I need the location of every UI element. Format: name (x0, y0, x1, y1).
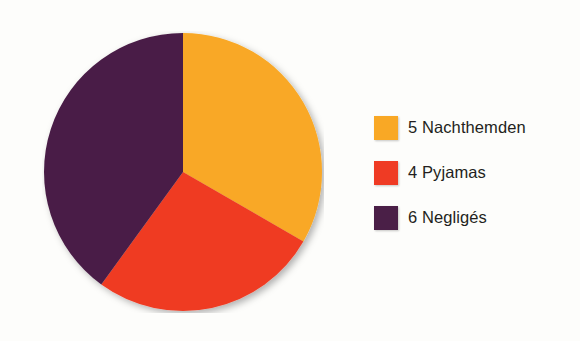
legend-item-negliges[interactable]: 6 Negligés (374, 195, 574, 240)
legend-item-pyjamas[interactable]: 4 Pyjamas (374, 150, 574, 195)
legend-item-nachthemden[interactable]: 5 Nachthemden (374, 105, 574, 150)
legend-label-pyjamas: 4 Pyjamas (408, 164, 486, 181)
pie-svg (42, 31, 324, 313)
pie-chart-graphic (42, 31, 324, 313)
legend-label-nachthemden: 5 Nachthemden (408, 119, 526, 136)
pie-chart-figure: 5 Nachthemden 4 Pyjamas 6 Negligés (0, 0, 580, 341)
chart-legend: 5 Nachthemden 4 Pyjamas 6 Negligés (374, 105, 574, 240)
legend-swatch-pyjamas (374, 161, 398, 185)
legend-swatch-nachthemden (374, 116, 398, 140)
pie-slices-group (44, 33, 322, 311)
legend-label-negliges: 6 Negligés (408, 209, 487, 226)
legend-swatch-negliges (374, 206, 398, 230)
